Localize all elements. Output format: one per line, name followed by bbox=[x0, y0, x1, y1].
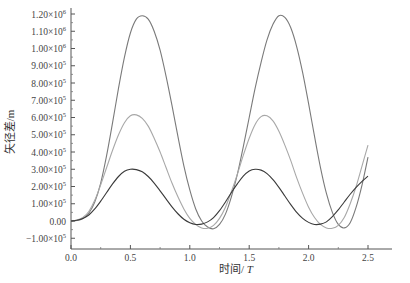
y-tick-label: 5.00×105 bbox=[31, 128, 66, 140]
y-axis-title: 矢径差/m bbox=[3, 109, 16, 154]
x-tick-label: 1.5 bbox=[243, 253, 255, 263]
y-tick-label: 9.00×105 bbox=[31, 59, 66, 71]
x-axis-title: 时间/ T bbox=[219, 263, 254, 275]
y-tick-label: 0.00 bbox=[49, 217, 66, 227]
y-tick-label: 3.00×105 bbox=[31, 163, 66, 175]
y-tick-label: 1.00×105 bbox=[31, 197, 66, 209]
line-chart: −1.00×1050.001.00×1052.00×1053.00×1054.0… bbox=[0, 0, 410, 283]
y-tick-label: 1.20×106 bbox=[31, 8, 66, 20]
series-curve-small bbox=[71, 169, 368, 224]
plot-lines bbox=[71, 15, 368, 229]
x-tick-label: 2.5 bbox=[362, 253, 374, 263]
x-tick-label: 1.0 bbox=[184, 253, 196, 263]
x-axis-title-unit: T bbox=[247, 263, 254, 275]
x-tick-label: 0.5 bbox=[124, 253, 136, 263]
x-tick-label: 2.0 bbox=[303, 253, 315, 263]
axes: −1.00×1050.001.00×1052.00×1053.00×1054.0… bbox=[26, 8, 392, 264]
y-tick-label: 6.00×105 bbox=[31, 111, 66, 123]
x-ticks: 0.00.51.01.52.02.5 bbox=[65, 245, 374, 263]
y-tick-label: 2.00×105 bbox=[31, 180, 66, 192]
y-tick-label: 8.00×105 bbox=[31, 77, 66, 89]
y-tick-label: 1.00×106 bbox=[31, 42, 66, 54]
y-tick-label: 1.10×106 bbox=[31, 25, 66, 37]
y-tick-label: 4.00×105 bbox=[31, 146, 66, 158]
series-curve-large bbox=[71, 15, 368, 229]
x-axis-title-text: 时间/ bbox=[219, 263, 245, 275]
x-tick-label: 0.0 bbox=[65, 253, 77, 263]
y-tick-label: 7.00×105 bbox=[31, 94, 66, 106]
y-ticks: −1.00×1050.001.00×1052.00×1053.00×1054.0… bbox=[26, 8, 75, 244]
y-tick-label: −1.00×105 bbox=[26, 232, 66, 244]
